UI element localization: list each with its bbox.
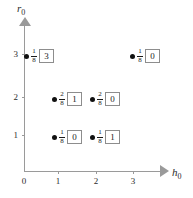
data-point: 280 xyxy=(90,91,120,107)
data-point-marker xyxy=(52,135,57,140)
data-point-boxed-value: 0 xyxy=(145,49,160,63)
data-point-fraction: 18 xyxy=(31,48,37,64)
y-axis-arrow-icon xyxy=(19,17,31,26)
y-tick-mark xyxy=(22,135,25,136)
fraction-numerator: 1 xyxy=(32,48,36,56)
data-point-marker xyxy=(90,97,95,102)
x-tick-mark xyxy=(96,171,97,174)
x-axis-title-subscript: 0 xyxy=(178,172,182,181)
fraction-numerator: 1 xyxy=(98,129,102,137)
fraction-denominator: 8 xyxy=(98,138,102,146)
x-tick-mark xyxy=(58,171,59,174)
data-point-boxed-value: 0 xyxy=(105,92,120,106)
data-point-marker xyxy=(90,135,95,140)
y-axis-title-subscript: 0 xyxy=(21,8,25,17)
data-point-marker xyxy=(130,54,135,59)
data-point: 180 xyxy=(130,48,160,64)
data-point-boxed-value: 1 xyxy=(67,92,82,106)
x-tick-label: 3 xyxy=(126,176,140,186)
data-point-fraction: 28 xyxy=(59,91,65,107)
x-tick-label: 2 xyxy=(89,176,103,186)
y-axis-title: r0 xyxy=(17,2,25,17)
x-axis-arrow-icon xyxy=(160,165,169,177)
data-point: 180 xyxy=(52,129,82,145)
fraction-numerator: 2 xyxy=(60,91,64,99)
fraction-denominator: 8 xyxy=(60,138,64,146)
fraction-denominator: 8 xyxy=(138,57,142,65)
data-point-marker xyxy=(24,54,29,59)
x-tick-label: 0 xyxy=(17,176,31,186)
data-point: 281 xyxy=(52,91,82,107)
data-point-fraction: 18 xyxy=(137,48,143,64)
y-tick-label: 3 xyxy=(6,49,18,59)
fraction-denominator: 8 xyxy=(32,57,36,65)
fraction-denominator: 8 xyxy=(98,100,102,108)
x-axis-line xyxy=(24,171,164,172)
x-axis-title: h0 xyxy=(172,166,182,181)
data-point-fraction: 18 xyxy=(97,129,103,145)
y-tick-mark xyxy=(22,97,25,98)
fraction-numerator: 1 xyxy=(60,129,64,137)
scatter-plot-figure: h0 r0 0123123 183180281280180181 xyxy=(0,0,193,198)
y-tick-label: 1 xyxy=(6,130,18,140)
y-tick-label: 2 xyxy=(6,92,18,102)
data-point-marker xyxy=(52,97,57,102)
data-point-boxed-value: 0 xyxy=(67,130,82,144)
data-point-fraction: 28 xyxy=(97,91,103,107)
fraction-denominator: 8 xyxy=(60,100,64,108)
data-point-fraction: 18 xyxy=(59,129,65,145)
fraction-numerator: 1 xyxy=(138,48,142,56)
x-tick-mark xyxy=(133,171,134,174)
fraction-numerator: 2 xyxy=(98,91,102,99)
x-tick-label: 1 xyxy=(51,176,65,186)
data-point-boxed-value: 1 xyxy=(105,130,120,144)
data-point: 181 xyxy=(90,129,120,145)
data-point-boxed-value: 3 xyxy=(39,49,54,63)
data-point: 183 xyxy=(24,48,54,64)
